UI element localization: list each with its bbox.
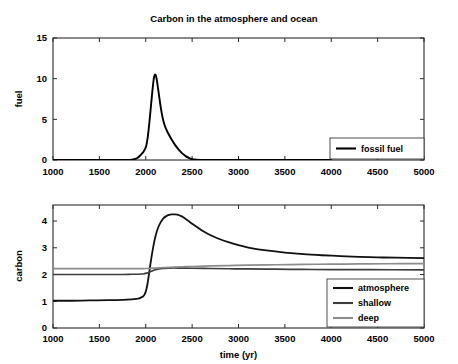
figure-container: Carbon in the atmosphere and ocean 10001… bbox=[0, 0, 458, 364]
legend-label-shallow: shallow bbox=[358, 298, 392, 308]
x-tick-label: 4000 bbox=[321, 166, 342, 177]
y-tick-label: 4 bbox=[42, 215, 48, 226]
y-axis-label: fuel bbox=[13, 91, 24, 108]
x-tick-label: 5000 bbox=[413, 333, 434, 344]
y-tick-label: 1 bbox=[42, 296, 48, 307]
x-tick-label: 2500 bbox=[182, 333, 203, 344]
x-tick-label: 2000 bbox=[135, 166, 156, 177]
x-axis-label: time (yr) bbox=[220, 349, 257, 360]
x-tick-label: 3500 bbox=[274, 166, 295, 177]
x-tick-label: 5000 bbox=[413, 166, 434, 177]
x-tick-label: 1000 bbox=[42, 166, 63, 177]
x-tick-label: 3500 bbox=[274, 333, 295, 344]
legend-label-deep: deep bbox=[358, 313, 380, 323]
y-tick-label: 0 bbox=[42, 154, 47, 165]
legend-label-atmosphere: atmosphere bbox=[358, 283, 409, 293]
y-tick-label: 0 bbox=[42, 322, 47, 333]
y-axis-label: carbon bbox=[13, 250, 24, 282]
x-tick-label: 2500 bbox=[182, 166, 203, 177]
y-tick-label: 10 bbox=[36, 73, 47, 84]
chart-svg: Carbon in the atmosphere and ocean 10001… bbox=[0, 0, 458, 364]
x-tick-label: 1500 bbox=[89, 166, 110, 177]
y-tick-label: 3 bbox=[42, 242, 47, 253]
x-tick-label: 4000 bbox=[321, 333, 342, 344]
x-tick-label: 3000 bbox=[228, 333, 249, 344]
x-tick-label: 4500 bbox=[367, 166, 388, 177]
x-tick-label: 1000 bbox=[42, 333, 63, 344]
x-tick-label: 3000 bbox=[228, 166, 249, 177]
x-tick-label: 2000 bbox=[135, 333, 156, 344]
x-tick-label: 1500 bbox=[89, 333, 110, 344]
y-tick-label: 2 bbox=[42, 269, 47, 280]
chart-title: Carbon in the atmosphere and ocean bbox=[150, 13, 318, 24]
y-tick-label: 15 bbox=[36, 32, 47, 43]
legend-label-fossil-fuel: fossil fuel bbox=[361, 144, 403, 154]
y-tick-label: 5 bbox=[42, 114, 48, 125]
x-tick-label: 4500 bbox=[367, 333, 388, 344]
